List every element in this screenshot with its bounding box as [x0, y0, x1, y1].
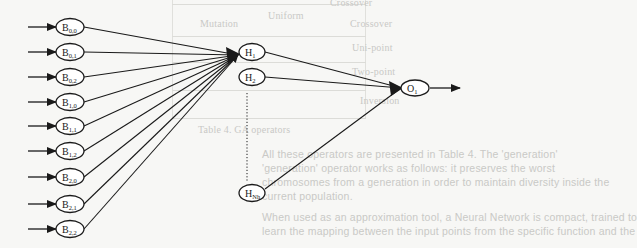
edge-hnh-o1	[265, 88, 401, 189]
hidden-node-h2: H2	[239, 69, 265, 86]
edge-b22-h1	[84, 55, 238, 229]
input-to-hidden-edges	[84, 27, 240, 229]
input-node-b02: B0,2	[56, 69, 84, 86]
input-node-b20: B2,0	[56, 169, 84, 186]
output-layer: O1	[401, 80, 429, 96]
input-arrows	[28, 27, 56, 229]
edge-b21-h1	[84, 55, 238, 204]
input-node-b00: B0,0	[56, 19, 84, 36]
hidden-node-hnh: HNh	[239, 185, 265, 202]
edge-b01-h1	[84, 52, 238, 55]
input-node-b21: B2,1	[56, 196, 84, 213]
input-node-b10: B1,0	[56, 94, 84, 111]
hidden-layer: H1H2HNh	[239, 44, 265, 202]
edge-b00-h1	[84, 27, 238, 55]
edge-b10-h1	[84, 55, 238, 102]
input-layer: B0,0B0,1B0,2B1,0B1,1B1,2B2,0B2,1B2,2	[56, 19, 84, 238]
output-node-o1: O1	[401, 80, 429, 96]
input-node-b01: B0,1	[56, 44, 84, 61]
hidden-to-output-edges	[265, 52, 403, 189]
input-node-b12: B1,2	[56, 143, 84, 160]
edge-b12-h1	[84, 55, 238, 151]
input-node-b11: B1,1	[56, 118, 84, 135]
hidden-node-h1: H1	[239, 44, 265, 61]
input-node-b22: B2,2	[56, 221, 84, 238]
